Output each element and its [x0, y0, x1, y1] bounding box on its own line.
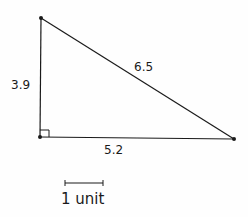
label-hypotenuse: 6.5	[134, 60, 153, 74]
vertex-bottom-right	[232, 137, 236, 141]
side-base	[40, 137, 234, 139]
vertex-bottom-left	[38, 135, 42, 139]
triangle-diagram: 3.9 6.5 5.2 1 unit	[0, 0, 248, 217]
side-vertical	[40, 18, 41, 137]
diagram-svg: 3.9 6.5 5.2 1 unit	[0, 0, 248, 217]
label-vertical-side: 3.9	[11, 78, 30, 92]
side-hypotenuse	[41, 18, 234, 139]
label-base: 5.2	[104, 143, 123, 157]
vertex-top	[39, 16, 43, 20]
scale-bar-label: 1 unit	[61, 190, 104, 208]
